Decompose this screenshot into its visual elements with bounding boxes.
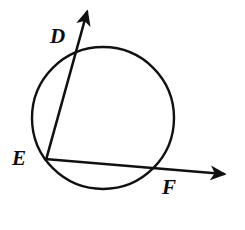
geometry-figure: D E F: [0, 0, 245, 230]
geometry-canvas: [0, 0, 245, 230]
point-label-e: E: [12, 148, 26, 169]
ray-e-to-f: [45, 159, 224, 174]
point-label-f: F: [162, 177, 176, 198]
point-label-d: D: [50, 26, 65, 47]
